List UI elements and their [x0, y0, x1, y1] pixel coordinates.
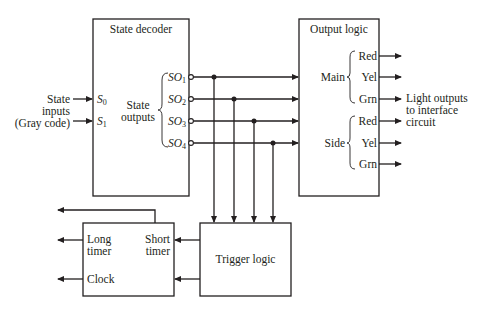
trigger-logic-title: Trigger logic [200, 253, 291, 266]
main-grn-label: Grn [350, 93, 377, 106]
short-timer-output [58, 210, 155, 223]
state-outputs-label-2: outputs [118, 111, 158, 124]
output-so3: SO3 [168, 115, 186, 131]
light-outputs-note-3: circuit [406, 116, 435, 129]
short-timer-label-2: timer [130, 245, 170, 258]
input-s1: S1 [97, 115, 107, 131]
main-yel-label: Yel [350, 71, 377, 84]
output-logic-title: Output logic [299, 23, 379, 36]
side-group-label: Side [310, 137, 345, 150]
main-red-label: Red [350, 50, 377, 63]
side-grn-label: Grn [350, 158, 377, 171]
output-so2: SO2 [168, 93, 186, 109]
so3-junction [252, 119, 257, 124]
input-s0: S0 [97, 93, 107, 109]
so4-junction [271, 141, 276, 146]
main-group-label: Main [310, 71, 345, 84]
state-decoder-title: State decoder [93, 23, 189, 36]
so1-junction [212, 75, 217, 80]
long-timer-label-2: timer [87, 245, 111, 258]
output-so1: SO1 [168, 71, 186, 87]
so2-junction [232, 97, 237, 102]
output-so4: SO4 [168, 137, 186, 153]
side-red-label: Red [350, 115, 377, 128]
so1-bubble [189, 75, 194, 80]
clock-label: Clock [87, 273, 114, 286]
state-outputs-brace [158, 73, 168, 147]
side-yel-label: Yel [350, 137, 377, 150]
so2-bubble [189, 97, 194, 102]
so3-bubble [189, 119, 194, 124]
state-inputs-label-3: (Gray code) [0, 117, 70, 130]
so4-bubble [189, 141, 194, 146]
